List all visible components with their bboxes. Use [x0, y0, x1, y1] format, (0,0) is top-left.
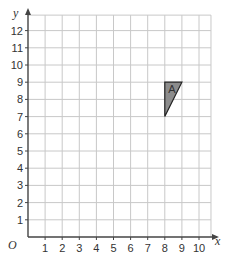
svg-text:3: 3 [17, 179, 23, 191]
y-axis-label: y [12, 6, 19, 20]
svg-text:1: 1 [42, 242, 48, 254]
x-axis-label: x [214, 234, 221, 248]
svg-text:6: 6 [17, 128, 23, 140]
svg-text:9: 9 [179, 242, 185, 254]
svg-text:7: 7 [145, 242, 151, 254]
svg-text:5: 5 [110, 242, 116, 254]
svg-text:1: 1 [17, 214, 23, 226]
svg-text:4: 4 [17, 162, 23, 174]
svg-text:9: 9 [17, 76, 23, 88]
coordinate-grid: 12345678910123456789101112 A O x y [0, 0, 238, 270]
svg-text:8: 8 [17, 93, 23, 105]
svg-text:10: 10 [11, 59, 23, 71]
origin-label: O [8, 238, 17, 252]
svg-text:4: 4 [93, 242, 99, 254]
grid-lines [28, 15, 211, 237]
triangle-label: A [168, 83, 176, 95]
svg-text:2: 2 [17, 197, 23, 209]
svg-text:5: 5 [17, 145, 23, 157]
svg-text:12: 12 [11, 25, 23, 37]
svg-text:3: 3 [76, 242, 82, 254]
svg-text:7: 7 [17, 111, 23, 123]
axes [25, 8, 219, 240]
svg-text:11: 11 [12, 42, 23, 54]
svg-text:8: 8 [162, 242, 168, 254]
svg-text:6: 6 [128, 242, 134, 254]
svg-text:2: 2 [59, 242, 65, 254]
svg-text:10: 10 [193, 242, 205, 254]
